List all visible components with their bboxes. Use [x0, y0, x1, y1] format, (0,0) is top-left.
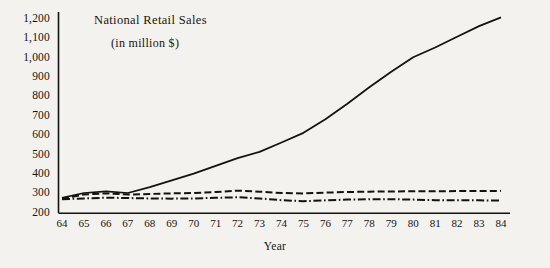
data-series-layer	[62, 17, 501, 201]
chart-plot-canvas	[0, 0, 550, 268]
chart-figure: National Retail Sales (in million $) 1,2…	[0, 0, 550, 268]
data-line-solid	[62, 17, 501, 197]
axis-lines	[59, 12, 511, 213]
data-line-dash-dot	[62, 197, 501, 201]
